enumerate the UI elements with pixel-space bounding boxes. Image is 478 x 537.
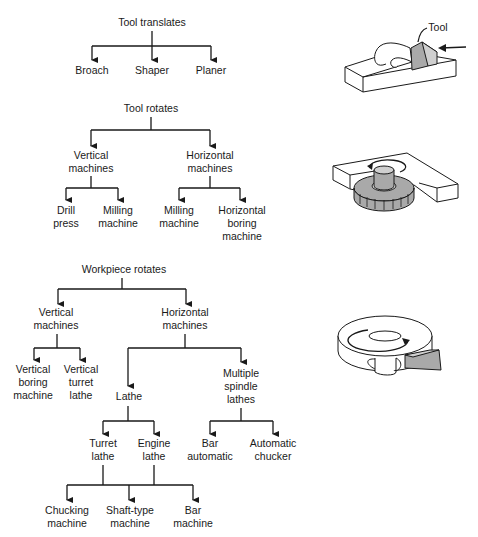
node-chucking-machine-2: machine [47,517,87,529]
node-shaper: Shaper [135,64,169,76]
rotating-tool-illustration [333,153,458,211]
node-vertical-boring-1: Vertical [16,363,50,375]
node-vertical-machines-label2: machines [69,162,114,174]
node-bar-automatic-1: Bar [202,437,219,449]
node-lathe: Lathe [116,390,142,402]
node-vertical-boring-3: machine [13,389,53,401]
node-automatic-chucker-2: chucker [255,450,292,462]
node-vertical-boring-2: boring [18,376,47,388]
node-turret-lathe-1: Turret [89,437,117,449]
translating-tool-illustration: Tool [345,21,466,92]
node-shaft-type-machine-2: machine [110,517,150,529]
node-vertical-machines-label1: Vertical [74,149,108,161]
node-milling-machine-h-2: machine [159,217,199,229]
node-engine-lathe-1: Engine [138,437,171,449]
node-automatic-chucker-1: Automatic [250,437,297,449]
root-workpiece-rotates: Workpiece rotates [82,263,166,275]
node-wp-horizontal-machines-1: Horizontal [161,306,208,318]
node-drill-press-2: press [53,217,79,229]
node-vertical-turret-1: Vertical [64,363,98,375]
node-drill-press-1: Drill [57,204,75,216]
tool-callout-label: Tool [428,21,447,33]
node-shaft-type-machine-1: Shaft-type [106,504,154,516]
node-multiple-spindle-1: Multiple [223,367,259,379]
node-broach: Broach [75,64,108,76]
node-turret-lathe-2: lathe [92,450,115,462]
node-multiple-spindle-2: spindle [224,380,257,392]
node-engine-lathe-2: lathe [143,450,166,462]
node-horizontal-boring-2: boring [227,217,256,229]
node-wp-vertical-machines-1: Vertical [39,306,73,318]
node-wp-vertical-machines-2: machines [34,319,79,331]
node-wp-horizontal-machines-2: machines [163,319,208,331]
rotating-workpiece-illustration [338,316,441,375]
node-milling-machine-h-1: Milling [164,204,194,216]
node-vertical-turret-3: lathe [70,389,93,401]
tree-tool-translates: Tool translates Broach Shaper Planer [75,16,226,76]
node-chucking-machine-1: Chucking [45,504,89,516]
root-tool-rotates: Tool rotates [124,102,178,114]
node-horizontal-machines-label1: Horizontal [186,149,233,161]
node-horizontal-machines-label2: machines [188,162,233,174]
machine-tool-classification-diagram: Tool translates Broach Shaper Planer Too… [0,0,478,537]
node-bar-automatic-2: automatic [187,450,233,462]
tree-workpiece-rotates: Workpiece rotates Vertical machines Hori… [13,263,296,529]
node-bar-machine-2: machine [173,517,213,529]
tree-tool-rotates: Tool rotates Vertical machines Horizonta… [53,102,265,242]
node-horizontal-boring-1: Horizontal [218,204,265,216]
node-planer: Planer [196,64,227,76]
node-milling-machine-v-1: Milling [103,204,133,216]
node-bar-machine-1: Bar [185,504,202,516]
root-tool-translates: Tool translates [118,16,186,28]
node-multiple-spindle-3: lathes [227,393,255,405]
node-vertical-turret-2: turret [69,376,94,388]
node-horizontal-boring-3: machine [222,230,262,242]
node-milling-machine-v-2: machine [98,217,138,229]
